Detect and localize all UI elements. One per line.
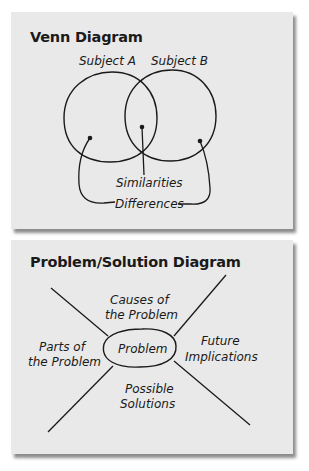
label-parts-line2: the Problem: [28, 355, 101, 369]
spoke-lower-right: [174, 361, 250, 425]
label-subject-a: Subject A: [79, 54, 136, 68]
problem-solution-diagram: Problem Causes of the Problem Parts of t…: [11, 240, 293, 454]
label-solutions-line2: Solutions: [120, 397, 175, 411]
label-problem: Problem: [118, 342, 168, 356]
label-solutions-line1: Possible: [125, 382, 174, 396]
venn-diagram-panel: Venn Diagram Subject A Subject B Similar…: [11, 12, 293, 229]
line-differences-a: [79, 138, 115, 203]
label-similarities: Similarities: [116, 176, 183, 190]
label-parts-line1: Parts of: [39, 340, 87, 354]
problem-solution-panel: Problem/Solution Diagram Problem Causes …: [11, 240, 293, 454]
spoke-lower-left: [48, 366, 113, 432]
line-differences-b: [178, 141, 210, 204]
label-future-line1: Future: [201, 334, 240, 348]
venn-diagram: Subject A Subject B Similarities Differe…: [11, 12, 293, 229]
spoke-upper-left: [51, 288, 108, 336]
label-causes-line1: Causes of: [110, 293, 170, 307]
label-causes-line2: the Problem: [105, 308, 178, 322]
label-future-line2: Implications: [185, 350, 258, 364]
label-subject-b: Subject B: [151, 54, 208, 68]
label-differences: Differences: [115, 197, 184, 211]
spoke-upper-right: [174, 275, 226, 336]
